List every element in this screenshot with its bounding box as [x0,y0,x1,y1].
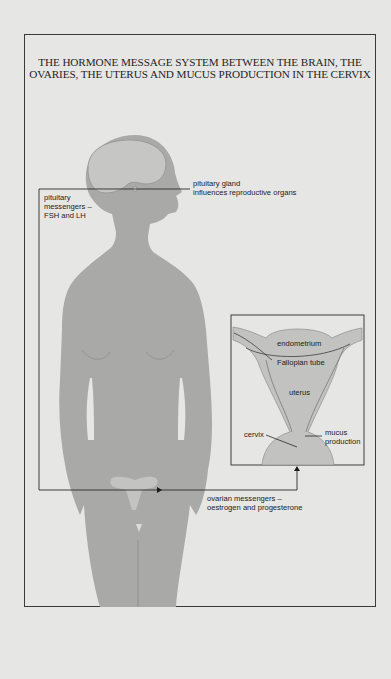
ovarian-messengers-label: ovarian messengers – oestrogen and proge… [207,494,302,512]
fallopian-tube-label: Fallopian tube [277,358,325,367]
pituitary-messengers-label: pituitary messengers – FSH and LH [44,193,92,220]
uterus-label: uterus [289,388,310,397]
mucus-production-label: mucus production [325,428,360,446]
uterus-arrow-icon [294,466,300,471]
cervix-label: cervix [244,430,264,439]
pituitary-gland-label: pituitary gland influences reproductive … [193,179,296,197]
body-diagram [0,0,391,679]
endometrium-label: endometrium [277,339,321,348]
